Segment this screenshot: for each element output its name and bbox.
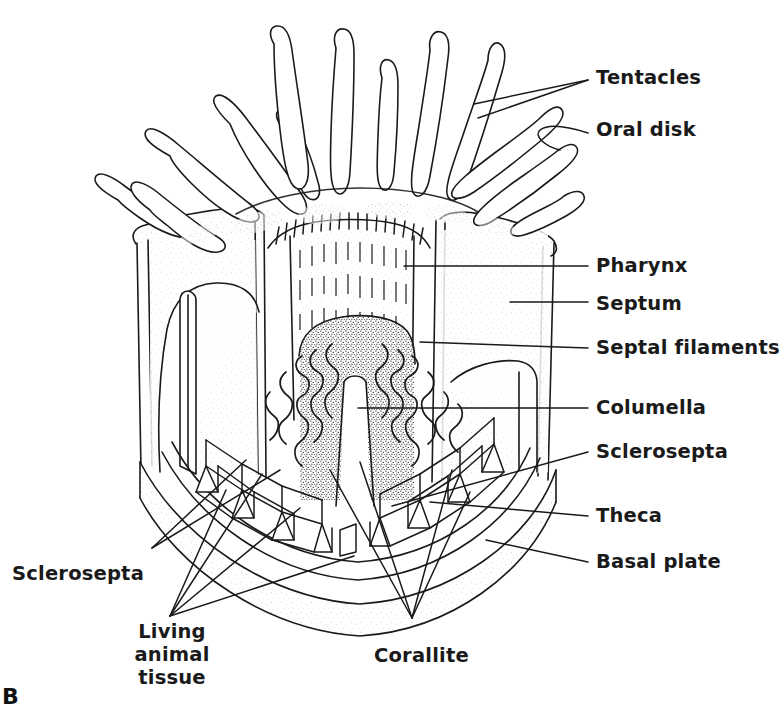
tentacles xyxy=(95,26,584,252)
label-sclerosepta-right: Sclerosepta xyxy=(596,440,728,463)
label-columella: Columella xyxy=(596,396,706,419)
label-pharynx: Pharynx xyxy=(596,254,688,277)
polyp-drawing xyxy=(95,26,588,636)
label-corallite: Corallite xyxy=(374,644,469,667)
label-tentacles: Tentacles xyxy=(596,66,701,89)
label-septal-filaments: Septal filaments xyxy=(596,336,780,359)
figure-panel-label: B xyxy=(2,684,19,706)
label-theca: Theca xyxy=(596,504,662,527)
label-sclerosepta-left: Sclerosepta xyxy=(12,562,144,585)
label-basal-plate: Basal plate xyxy=(596,550,721,573)
label-oral-disk: Oral disk xyxy=(596,118,696,141)
figure-container: Tentacles Oral disk Pharynx Septum Septa… xyxy=(0,0,780,706)
label-septum: Septum xyxy=(596,292,682,315)
label-living-animal-tissue: Living animal tissue xyxy=(98,620,246,689)
